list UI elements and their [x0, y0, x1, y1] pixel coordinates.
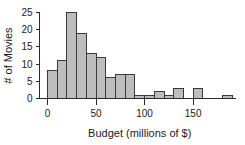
x-axis-ticks: 050100150 [45, 99, 202, 119]
histogram-bars [48, 13, 233, 99]
x-tick-label: 50 [90, 108, 102, 119]
y-tick-label: 10 [21, 59, 33, 70]
x-tick-label: 150 [185, 108, 202, 119]
histogram-bar [125, 74, 135, 98]
y-tick-label: 25 [21, 7, 33, 18]
histogram-bar [174, 88, 184, 98]
y-tick-label: 0 [27, 93, 33, 104]
histogram-bar [67, 13, 77, 99]
y-tick-label: 20 [21, 24, 33, 35]
histogram-chart: 0510152025 050100150 # of Movies Budget … [0, 0, 245, 145]
y-tick-label: 5 [27, 76, 33, 87]
x-tick-label: 0 [45, 108, 51, 119]
histogram-bar [106, 78, 116, 99]
histogram-bar [48, 71, 58, 99]
x-axis-title: Budget (millions of $) [88, 127, 191, 139]
histogram-bar [193, 88, 203, 98]
x-tick-label: 100 [136, 108, 153, 119]
histogram-bar [115, 74, 125, 98]
y-tick-label: 15 [21, 41, 33, 52]
y-axis-title: # of Movies [2, 27, 14, 84]
chart-canvas: 0510152025 050100150 # of Movies Budget … [0, 0, 245, 145]
histogram-bar [77, 33, 87, 98]
histogram-bar [57, 61, 67, 99]
histogram-bar [86, 54, 96, 99]
histogram-bar [154, 92, 164, 99]
histogram-bar [96, 57, 106, 98]
y-axis-ticks: 0510152025 [21, 7, 39, 104]
